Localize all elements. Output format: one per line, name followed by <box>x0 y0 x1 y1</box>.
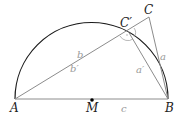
label-side-c: c <box>121 103 127 114</box>
label-c: C <box>144 3 153 17</box>
label-side-b-prime: b′ <box>70 63 79 74</box>
label-c-prime: C′ <box>120 16 132 30</box>
label-m: M <box>85 101 99 115</box>
side-a-prime-line <box>128 31 168 99</box>
label-side-b: b <box>77 49 83 60</box>
label-side-a-prime: a′ <box>136 64 145 75</box>
thales-diagram: A M B C C′ c b b′ a a′ <box>0 0 186 126</box>
label-side-a: a <box>160 51 166 62</box>
label-b: B <box>164 101 174 115</box>
label-a: A <box>9 101 19 115</box>
angle-dot-cprime <box>126 34 127 35</box>
